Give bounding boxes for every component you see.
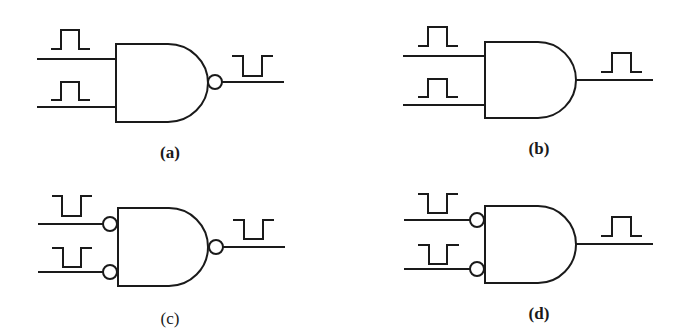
and-gate-body xyxy=(485,206,576,283)
nand-gate-body xyxy=(116,44,208,122)
output-inverter-bubble xyxy=(209,240,223,254)
panel-label-c: (c) xyxy=(161,309,180,328)
negative-pulse-icon xyxy=(418,245,459,264)
negative-pulse-icon xyxy=(232,56,273,76)
input-inverter-bubble-1 xyxy=(103,217,117,231)
input-inverter-bubble-2 xyxy=(103,265,117,279)
nand-gate-body xyxy=(118,208,208,286)
positive-pulse-icon xyxy=(418,27,458,46)
positive-pulse-icon xyxy=(601,217,642,236)
output-inverter-bubble xyxy=(208,75,222,89)
panel-label-b: (b) xyxy=(529,139,550,158)
negative-pulse-icon xyxy=(418,194,458,213)
panel-label-a: (a) xyxy=(160,143,180,162)
positive-pulse-icon xyxy=(601,53,642,72)
positive-pulse-icon xyxy=(418,79,458,97)
input-inverter-bubble-1 xyxy=(470,213,484,227)
logic-gate-figure: (a) (b) (c) (d) xyxy=(0,0,679,335)
input-inverter-bubble-2 xyxy=(470,262,484,276)
negative-pulse-icon xyxy=(52,196,92,216)
panel-d: (d) xyxy=(404,194,653,323)
panel-a: (a) xyxy=(37,30,284,162)
negative-pulse-icon xyxy=(52,248,92,267)
positive-pulse-icon xyxy=(51,82,90,100)
panel-label-d: (d) xyxy=(529,304,550,323)
and-gate-body xyxy=(485,42,576,118)
positive-pulse-icon xyxy=(51,30,90,49)
negative-pulse-icon xyxy=(233,220,274,239)
panel-b: (b) xyxy=(403,27,653,158)
panel-c: (c) xyxy=(38,196,285,328)
